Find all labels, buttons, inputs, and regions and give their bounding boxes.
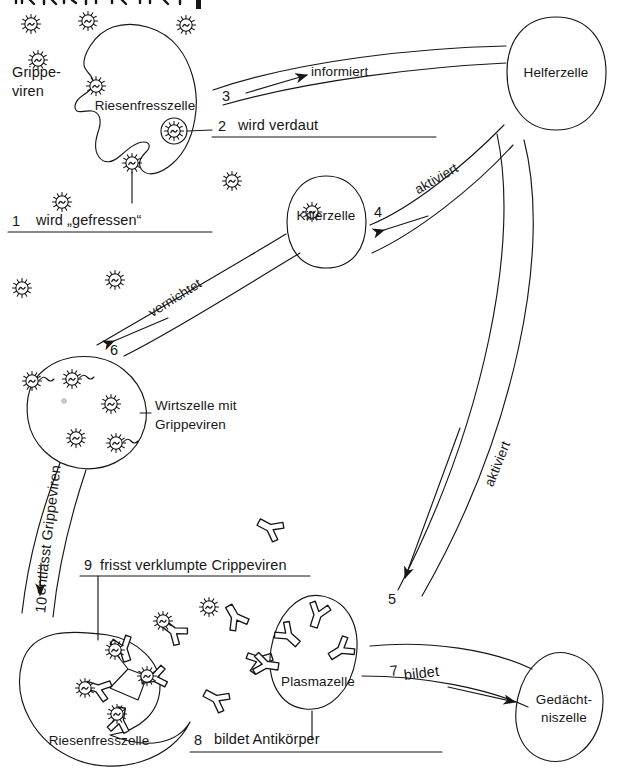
step-10-number: 10 [32,596,51,614]
step-4-number: 4 [374,204,382,221]
step-2-text: wird verdaut [238,117,318,134]
diagram-artwork [0,0,624,771]
step-6-number: 6 [110,342,118,359]
step-1-number: 1 [12,213,20,230]
free-viruses-bottom [199,597,218,616]
plasmazelle-antibodies [252,600,357,678]
cell-label-helferzelle: Helferzelle [504,65,608,81]
cell-label-wirtszelle-line1: Wirtszelle mit [155,398,237,414]
step-1-text: wird „gefressen“ [36,212,142,229]
cell-label-wirtszelle-line2: Grippeviren [155,417,226,433]
cell-label-riesenfresszelle-top: Riesenfresszelle [90,98,200,114]
virus-cluster-host [22,369,138,452]
step-3-number: 3 [222,88,230,105]
legend-grippeviren-line1: Grippe- [12,64,61,81]
leader-step2 [187,130,212,131]
cropped-title-remnant [16,0,201,9]
step-8-number: 8 [194,732,202,749]
clump-antibodies [83,615,191,734]
arrow-label-informiert: informiert [311,64,368,80]
step-2-number: 2 [218,118,226,135]
virus-cluster-top [12,11,321,297]
arrow-aktiviert-plasma [398,134,533,596]
step-9-number: 9 [84,557,92,574]
immune-response-diagram: Grippe- viren Riesenfresszelle Helferzel… [0,0,624,771]
arrow-aktiviert-killer [370,125,513,253]
cell-label-gedaechtniszelle-line2: niszelle [523,710,605,726]
step-5-number: 5 [388,591,396,608]
legend-grippeviren-line2: viren [12,83,44,100]
step-9-text: frisst verklumpte Crippeviren [100,557,287,574]
cell-label-plasmazelle: Plasmazelle [270,674,366,690]
cell-label-killerzelle: Killerzelle [284,208,368,224]
cell-label-gedaechtniszelle-line1: Gedächt- [523,692,605,708]
cell-label-riesenfresszelle-bottom: Riesenfresszelle [34,733,164,749]
step-8-text: bildet Antikörper [214,731,320,748]
arrow-vernichtet [97,234,300,356]
host-cell-nucleus [62,399,67,404]
arrow-bildet [362,644,532,707]
wirtszelle-outline [27,357,146,469]
